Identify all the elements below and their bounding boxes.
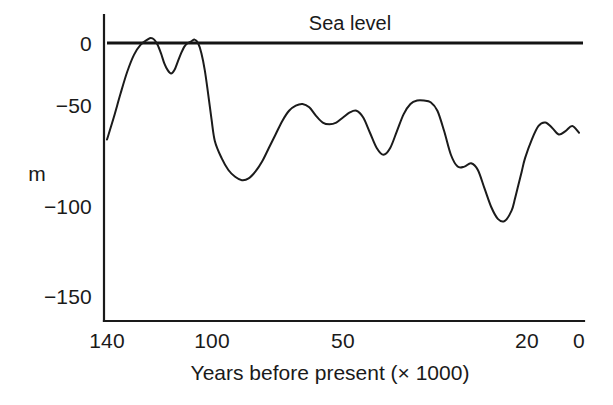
y-tick-label-0: 0 [80,32,92,55]
x-tick-label-50: 50 [331,329,355,352]
x-tick-label-100: 100 [194,329,230,352]
chart-canvas: 0 −50 −100 −150 m 140 100 50 20 0 Years … [0,0,613,405]
y-tick-label-minus50: −50 [56,94,92,117]
x-tick-label-0: 0 [573,329,585,352]
x-tick-label-140: 140 [89,329,125,352]
sea-level-chart-figure: 0 −50 −100 −150 m 140 100 50 20 0 Years … [0,0,613,405]
y-axis-title: m [28,162,46,185]
sea-level-curve [107,38,579,222]
x-tick-label-20: 20 [515,329,539,352]
x-axis-title: Years before present (× 1000) [191,361,470,384]
y-tick-label-minus150: −150 [44,285,92,308]
y-tick-label-minus100: −100 [44,195,92,218]
sea-level-annotation-label: Sea level [309,12,391,34]
